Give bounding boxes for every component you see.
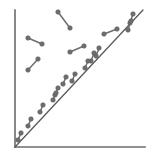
dumbbell-dot-end: [54, 91, 59, 96]
dumbbell-dot-end: [73, 72, 78, 77]
dumbbell-dot-end: [92, 51, 97, 56]
dumbbell-connector: [58, 12, 70, 28]
dumbbell-dot-end: [29, 117, 34, 122]
dumbbell-dot-end: [115, 27, 120, 32]
dumbbell-dot-start: [16, 138, 21, 143]
dumbbell-dot-start: [51, 98, 56, 103]
plot-canvas: [0, 0, 155, 154]
dumbbell-dot-end: [82, 44, 87, 49]
data-point-dumbbell: [102, 27, 120, 37]
dumbbell-dot-start: [70, 79, 75, 84]
data-point-dumbbell: [126, 19, 134, 33]
dumbbell-dot-end: [40, 42, 45, 47]
dumbbell-dot-start: [126, 28, 131, 33]
data-point-dumbbell: [51, 91, 59, 103]
dumbbell-dot-end: [97, 46, 102, 51]
dumbbell-dot-start: [38, 110, 43, 115]
dumbbell-dot-start: [102, 32, 107, 37]
data-point-dumbbell: [26, 36, 45, 47]
dumbbell-dot-end: [19, 131, 24, 136]
dumbbell-dot-start: [56, 10, 61, 15]
dumbbell-dot-end: [41, 103, 46, 108]
dumbbell-dot-end: [68, 26, 73, 31]
data-point-dumbbell: [26, 57, 41, 73]
dumbbell-dot-end: [131, 12, 136, 17]
dumbbell-dot-start: [68, 50, 73, 55]
reference-diagonal-line: [15, 10, 143, 147]
scatter-plot-figure: [0, 0, 155, 154]
data-point-dumbbell: [68, 44, 87, 55]
dumbbell-dot-start: [26, 36, 31, 41]
dumbbell-dot-start: [83, 66, 88, 71]
data-point-dumbbell: [61, 75, 69, 87]
dumbbell-dot-start: [61, 82, 66, 87]
data-point-dumbbell: [56, 10, 73, 31]
dumbbell-dot-start: [26, 68, 31, 73]
dumbbell-dot-end: [64, 75, 69, 80]
data-point-dumbbell: [38, 103, 46, 115]
data-point-group: [16, 10, 136, 143]
dumbbell-dot-end: [129, 19, 134, 24]
dumbbell-dot-end: [56, 86, 61, 91]
dumbbell-dot-end: [36, 57, 41, 62]
dumbbell-dot-start: [26, 124, 31, 129]
data-point-dumbbell: [16, 131, 24, 143]
dumbbell-dot-end: [86, 59, 91, 64]
data-point-dumbbell: [26, 117, 34, 129]
